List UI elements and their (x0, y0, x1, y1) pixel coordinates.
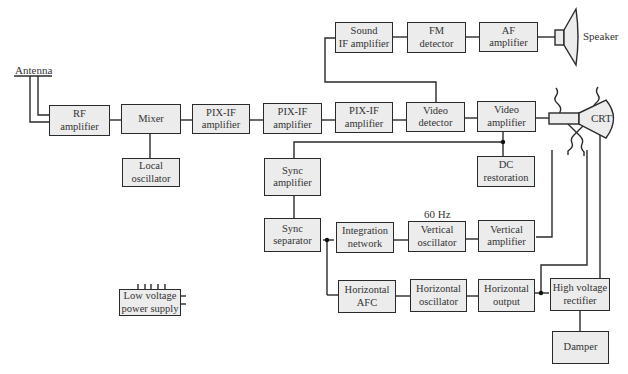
dc-restoration-block: DCrestoration (477, 156, 535, 187)
af-amplifier-block: AFamplifier (479, 22, 538, 52)
speaker-label: Speaker (583, 30, 618, 42)
horizontal-oscillator-block: Horizontaloscillator (410, 279, 467, 312)
pix-if-amplifier-3-block: PIX-IFamplifier (335, 102, 393, 133)
high-voltage-rectifier-block: High voltagerectifier (550, 278, 610, 311)
sync-separator-block: Syncseparator (264, 218, 321, 252)
speaker-icon (555, 9, 578, 65)
vertical-oscillator-block: Verticaloscillator (408, 221, 466, 252)
pix-if-amplifier-1-block: PIX-IFamplifier (192, 104, 250, 134)
fm-detector-block: FMdetector (407, 22, 466, 53)
sync-amplifier-block: Syncamplifier (264, 158, 321, 196)
antenna-label: Antenna (15, 64, 52, 76)
rf-amplifier-block: RFamplifier (49, 105, 110, 136)
video-detector-block: Videodetector (406, 102, 465, 132)
vertical-amplifier-block: Verticalamplifier (478, 220, 535, 252)
sound-if-amplifier-block: SoundIF amplifier (335, 22, 393, 53)
damper-block: Damper (552, 331, 609, 364)
crt-label: CRT (591, 112, 612, 124)
horizontal-output-block: Horizontaloutput (478, 279, 535, 312)
video-amplifier-block: Videoamplifier (477, 101, 536, 132)
pix-if-amplifier-2-block: PIX-IFamplifier (263, 103, 322, 134)
tv-receiver-block-diagram: Antenna Speaker CRT 60 Hz RFamplifier Mi… (0, 0, 628, 374)
mixer-block: Mixer (121, 104, 181, 134)
local-oscillator-block: Localoscillator (122, 158, 180, 187)
horizontal-afc-block: HorizontalAFC (338, 280, 396, 313)
low-voltage-power-supply-block: Low voltagepower supply (119, 289, 181, 316)
integration-network-block: Integrationnetwork (336, 222, 394, 253)
frequency-label: 60 Hz (424, 208, 451, 220)
